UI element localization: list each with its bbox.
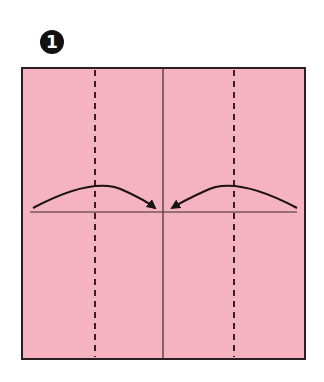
origami-fold-diagram: [0, 0, 324, 382]
